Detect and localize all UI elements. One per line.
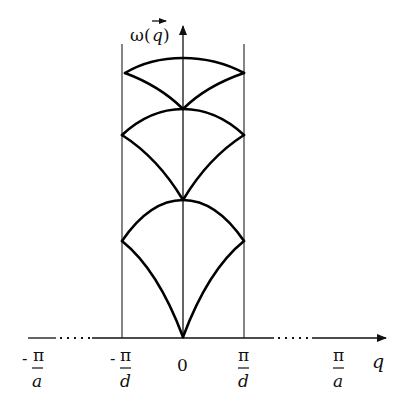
optical-branch-2-right bbox=[183, 73, 244, 109]
optical-branch-1-right bbox=[183, 135, 244, 200]
svg-text:-: - bbox=[110, 349, 115, 368]
optical-branch-2-left bbox=[125, 73, 183, 109]
svg-text:π: π bbox=[120, 345, 131, 365]
tick-neg-pi-a: - π a bbox=[22, 345, 44, 391]
svg-text:-: - bbox=[22, 349, 27, 368]
svg-text:a: a bbox=[333, 371, 343, 391]
optical-branch-3-top bbox=[125, 58, 244, 73]
dispersion-diagram: ω ( q ) q - π a - π d 0 π d π a bbox=[0, 0, 409, 410]
svg-text:d: d bbox=[238, 371, 249, 391]
svg-text:(: ( bbox=[144, 25, 151, 45]
svg-text:π: π bbox=[33, 345, 44, 365]
svg-text:a: a bbox=[32, 371, 42, 391]
acoustic-branch-right bbox=[183, 241, 244, 337]
tick-pi-a: π a bbox=[333, 345, 344, 391]
svg-text:q: q bbox=[152, 25, 163, 45]
tick-neg-pi-d: - π d bbox=[110, 345, 131, 391]
tick-pi-d: π d bbox=[238, 345, 249, 391]
svg-text:ω: ω bbox=[130, 25, 144, 45]
svg-text:π: π bbox=[238, 345, 249, 365]
acoustic-branch-left bbox=[122, 241, 183, 337]
y-axis-label: ω ( q ) bbox=[130, 21, 170, 45]
svg-text:): ) bbox=[163, 25, 170, 45]
svg-text:π: π bbox=[333, 345, 344, 365]
x-axis-label: q bbox=[372, 350, 384, 372]
optical-branch-1-left bbox=[122, 135, 183, 200]
tick-zero: 0 bbox=[177, 355, 188, 375]
svg-text:d: d bbox=[120, 371, 131, 391]
